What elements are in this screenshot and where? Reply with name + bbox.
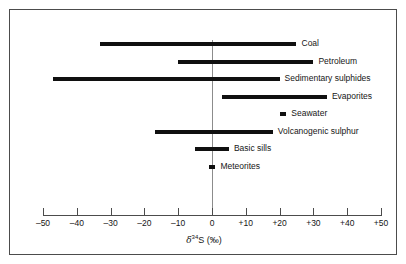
range-bar-row: Evaporites xyxy=(10,91,398,105)
x-tick-mark xyxy=(246,208,247,216)
x-tick-label: +10 xyxy=(239,218,253,228)
range-bar-row: Meteorites xyxy=(10,161,398,175)
x-tick-mark xyxy=(313,208,314,216)
range-bar-label: Meteorites xyxy=(220,159,260,173)
x-tick-mark xyxy=(178,208,179,216)
range-bar xyxy=(53,77,279,81)
range-bar-label: Seawater xyxy=(291,106,327,120)
range-bar xyxy=(280,112,287,116)
x-tick-label: +50 xyxy=(374,218,388,228)
x-tick-mark xyxy=(77,208,78,216)
range-bar-row: Sedimentary sulphides xyxy=(10,73,398,87)
range-bar xyxy=(100,42,296,46)
x-tick-label: +40 xyxy=(340,218,354,228)
range-bar-label: Basic sills xyxy=(234,141,271,155)
range-bar-row: Petroleum xyxy=(10,56,398,70)
x-tick-label: 0 xyxy=(210,218,215,228)
x-tick-label: +20 xyxy=(272,218,286,228)
x-tick-mark xyxy=(381,208,382,216)
range-bar xyxy=(209,165,216,169)
range-bar-row: Coal xyxy=(10,38,398,52)
x-tick-mark xyxy=(280,208,281,216)
range-bar-label: Volcanogenic sulphur xyxy=(278,124,359,138)
x-tick-mark xyxy=(43,208,44,216)
range-bar xyxy=(178,60,313,64)
range-bar xyxy=(222,95,327,99)
x-tick-label: –10 xyxy=(171,218,185,228)
plot-frame: CoalPetroleumSedimentary sulphidesEvapor… xyxy=(9,9,397,255)
x-tick-mark xyxy=(347,208,348,216)
x-tick-label: –50 xyxy=(36,218,50,228)
range-bar-label: Evaporites xyxy=(332,89,372,103)
x-axis-title: δ34S (‰) xyxy=(10,234,398,245)
range-bar-label: Sedimentary sulphides xyxy=(285,71,371,85)
figure-canvas: CoalPetroleumSedimentary sulphidesEvapor… xyxy=(0,0,406,264)
x-tick-label: –30 xyxy=(104,218,118,228)
range-bar-row: Volcanogenic sulphur xyxy=(10,126,398,140)
x-tick-mark xyxy=(144,208,145,216)
range-bar-label: Petroleum xyxy=(318,54,357,68)
x-tick-mark xyxy=(212,208,213,216)
x-tick-label: –40 xyxy=(70,218,84,228)
range-bar xyxy=(195,147,229,151)
x-tick-label: +30 xyxy=(306,218,320,228)
range-bar-row: Seawater xyxy=(10,108,398,122)
range-bar-label: Coal xyxy=(302,36,319,50)
x-tick-label: –20 xyxy=(137,218,151,228)
x-tick-mark xyxy=(111,208,112,216)
range-bar xyxy=(155,130,273,134)
axis-title-rest: S (‰) xyxy=(198,235,222,245)
range-bar-row: Basic sills xyxy=(10,143,398,157)
